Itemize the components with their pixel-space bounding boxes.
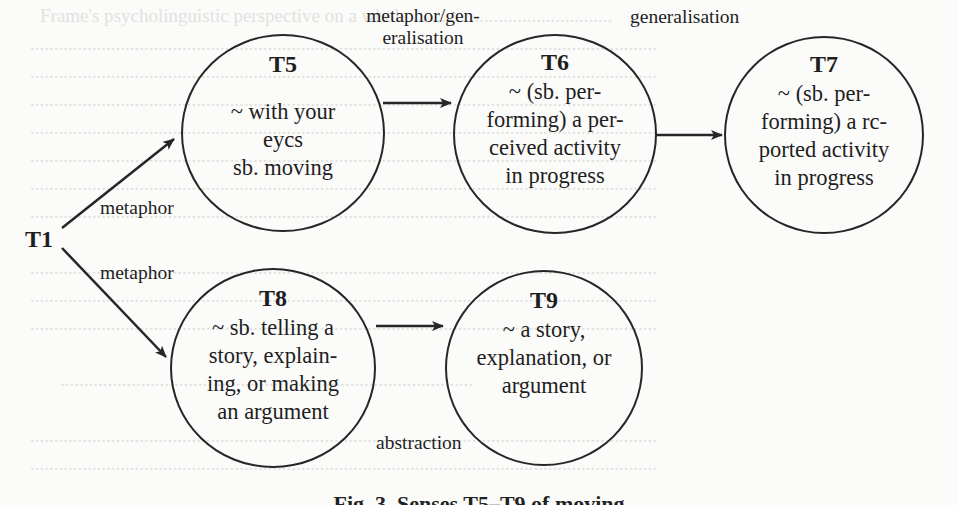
node-title: T8 [259, 284, 287, 312]
node-t1: T1 [25, 226, 53, 253]
node-text: ~ (sb. per- forming) a rc- ported activi… [759, 80, 890, 192]
node-text: ~ a story, explanation, or argument [477, 316, 612, 400]
node-t9: T9 ~ a story, explanation, or argument [445, 270, 643, 466]
edge-label-t1-t8: metaphor [100, 262, 174, 284]
node-text: ~ (sb. per- forming) a per- ceived activ… [487, 78, 624, 190]
edge-label-t8-t9: abstraction [376, 432, 462, 454]
node-t6: T6 ~ (sb. per- forming) a per- ceived ac… [453, 34, 657, 234]
node-t7: T7 ~ (sb. per- forming) a rc- ported act… [724, 36, 924, 234]
node-text: ~ with your eycs sb. moving [231, 98, 336, 182]
node-t8: T8 ~ sb. telling a story, explain- ing, … [170, 268, 376, 468]
node-title: T6 [541, 48, 569, 76]
edge-label-t6-t7: generalisation [630, 6, 739, 28]
edge-label-t5-t6: metaphor/gen- eralisation [353, 5, 493, 49]
node-title: T9 [530, 286, 558, 314]
node-text: ~ sb. telling a story, explain- ing, or … [207, 314, 339, 426]
node-t5: T5 ~ with your eycs sb. moving [181, 34, 385, 232]
node-title: T5 [269, 50, 297, 78]
edge-label-t1-t5: metaphor [100, 197, 174, 219]
figure-caption: Fig. 3. Senses T5–T9 of moving [0, 489, 958, 505]
node-title: T7 [810, 50, 838, 78]
